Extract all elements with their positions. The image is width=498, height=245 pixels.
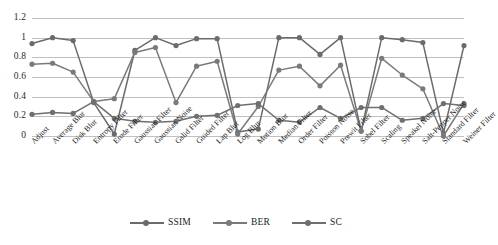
data-point [317, 83, 322, 88]
data-point [194, 36, 199, 41]
y-axis: 00.20.40.60.811.2 [0, 18, 30, 136]
data-point [215, 36, 220, 41]
data-point [359, 105, 364, 110]
data-point [338, 63, 343, 68]
data-point [338, 35, 343, 40]
data-point [317, 105, 322, 110]
y-axis-tick-label: 0 [21, 131, 26, 141]
y-axis-tick-label: 1.2 [14, 13, 26, 23]
data-point [132, 50, 137, 55]
data-point [50, 110, 55, 115]
legend-label: BER [251, 218, 270, 228]
chart-legend: SSIMBERSC [0, 218, 472, 228]
legend-label: SSIM [168, 218, 191, 228]
data-point [29, 41, 34, 46]
legend-item-sc[interactable]: SC [292, 218, 342, 228]
data-point [50, 61, 55, 66]
x-axis: AdjustAverage BlurDisk BlurEntropy Filte… [32, 136, 464, 208]
legend-marker-icon [213, 218, 247, 227]
data-point [379, 35, 384, 40]
legend-label: SC [330, 218, 342, 228]
data-point [29, 62, 34, 67]
legend-marker-icon [292, 218, 326, 227]
data-point [297, 35, 302, 40]
legend-item-ssim[interactable]: SSIM [130, 218, 191, 228]
data-point [91, 99, 96, 104]
data-point [400, 72, 405, 77]
data-point [194, 64, 199, 69]
data-point [276, 68, 281, 73]
data-point [235, 103, 240, 108]
data-point [297, 64, 302, 69]
data-point [173, 100, 178, 105]
series-layer [32, 18, 464, 136]
data-point [400, 37, 405, 42]
data-point [461, 43, 466, 48]
y-axis-tick-label: 0.8 [14, 53, 26, 63]
legend-marker-icon [130, 218, 164, 227]
data-point [400, 118, 405, 123]
data-point [153, 45, 158, 50]
data-point [379, 105, 384, 110]
y-axis-tick-label: 0.4 [14, 92, 26, 102]
data-point [173, 43, 178, 48]
data-point [256, 101, 261, 106]
data-point [276, 35, 281, 40]
legend-item-ber[interactable]: BER [213, 218, 270, 228]
y-axis-tick-label: 1 [21, 33, 26, 43]
data-point [71, 38, 76, 43]
data-point [50, 35, 55, 40]
data-point [215, 59, 220, 64]
data-point [317, 52, 322, 57]
data-point [71, 69, 76, 74]
y-axis-tick-label: 0.2 [14, 112, 26, 122]
data-point [441, 101, 446, 106]
data-point [153, 35, 158, 40]
plot-area [32, 18, 464, 136]
data-point [420, 86, 425, 91]
data-point [420, 40, 425, 45]
data-point [112, 96, 117, 101]
data-point [29, 112, 34, 117]
data-point [379, 56, 384, 61]
y-axis-tick-label: 0.6 [14, 72, 26, 82]
